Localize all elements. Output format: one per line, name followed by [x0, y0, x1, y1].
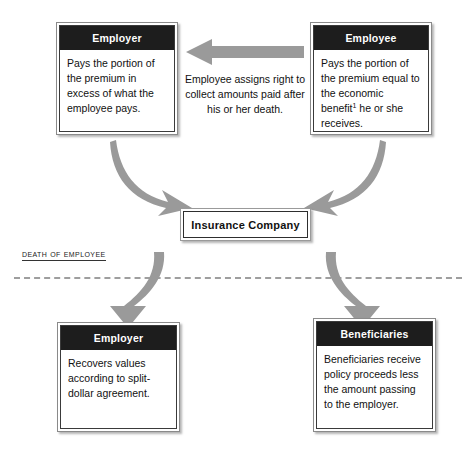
assignment-note: Employee assigns right to collect amount… — [184, 72, 306, 117]
node-employee-top-frame: Employee Pays the portion of the premium… — [313, 25, 429, 132]
node-employer-bottom-body: Recovers values according to split-dolla… — [61, 350, 176, 428]
divider-label: Death of Employee — [22, 248, 106, 261]
node-employee-top-body: Pays the portion of the premium equal to… — [314, 50, 428, 135]
arrow-employee-to-insurer — [300, 138, 386, 220]
node-insurance-company-label: Insurance Company — [191, 219, 300, 231]
node-employer-top-body: Pays the portion of the premium in exces… — [60, 50, 174, 131]
node-employer-top: Employer Pays the portion of the premium… — [56, 22, 178, 135]
node-beneficiaries-bottom-body: Beneficiaries receive policy proceeds le… — [317, 346, 432, 428]
node-employer-bottom: Employer Recovers values according to sp… — [57, 322, 180, 432]
divider-line — [14, 277, 462, 279]
node-employer-bottom-header: Employer — [61, 326, 176, 350]
arrow-insurer-to-employer — [108, 252, 170, 330]
node-employee-top: Employee Pays the portion of the premium… — [310, 22, 432, 135]
node-employee-top-header: Employee — [314, 26, 428, 50]
node-beneficiaries-bottom: Beneficiaries Beneficiaries receive poli… — [313, 318, 436, 432]
node-employer-bottom-frame: Employer Recovers values according to sp… — [60, 325, 177, 429]
node-employer-top-header: Employer — [60, 26, 174, 50]
node-insurance-company: Insurance Company — [180, 208, 311, 241]
arrow-employee-to-employer — [186, 38, 304, 66]
node-insurance-company-label-wrap: Insurance Company — [183, 211, 308, 238]
node-beneficiaries-bottom-header: Beneficiaries — [317, 322, 432, 346]
diagram-canvas: Employer Pays the portion of the premium… — [0, 0, 474, 458]
node-beneficiaries-bottom-frame: Beneficiaries Beneficiaries receive poli… — [316, 321, 433, 429]
node-employer-top-frame: Employer Pays the portion of the premium… — [59, 25, 175, 132]
